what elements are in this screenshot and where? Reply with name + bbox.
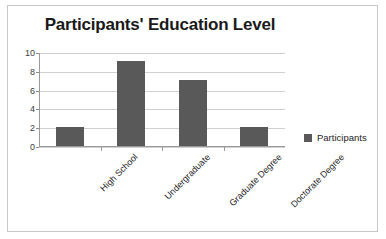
plot-area: [39, 53, 285, 147]
x-axis-category-label: Undergraduate: [163, 152, 213, 202]
chart-title: Participants' Education Level: [20, 15, 300, 35]
legend-entry-label: Participants: [317, 132, 367, 143]
bar: [179, 80, 207, 146]
x-axis-category-label: Doctorate Degree: [289, 152, 346, 209]
x-axis-category-label: Graduate Degree: [227, 152, 283, 208]
bar-series: [39, 53, 285, 147]
y-axis-tick-labels: 0246810: [16, 53, 35, 147]
y-axis-tick-label: 2: [17, 124, 35, 133]
chart-frame: Participants' Education Level 0246810 Hi…: [7, 5, 378, 232]
x-axis-category-labels: High SchoolUndergraduateGraduate DegreeD…: [39, 148, 289, 226]
y-axis-tick-label: 10: [17, 49, 35, 58]
y-axis-tick-label: 4: [17, 105, 35, 114]
bar: [56, 127, 84, 146]
square-marker-icon: [304, 134, 312, 142]
y-axis-tick-label: 0: [17, 143, 35, 152]
y-axis-tick-label: 6: [17, 87, 35, 96]
x-axis-category-label: High School: [98, 152, 139, 193]
y-axis-tick-label: 8: [17, 68, 35, 77]
chart-legend: Participants: [304, 132, 367, 143]
bar: [240, 127, 268, 146]
bar: [117, 61, 145, 146]
